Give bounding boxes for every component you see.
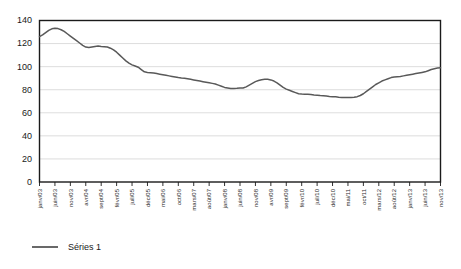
x-axis-tick-label: janv/08 [222,188,228,209]
x-axis-tick-label: avr/09 [268,188,274,205]
x-axis-tick-label: août/12 [391,188,397,209]
x-axis-tick-label: janv/13 [407,188,413,209]
x-axis-tick-label: mars/12 [376,188,382,210]
x-axis-tick-label: janv/03 [37,188,43,209]
x-axis-tick-label: févr/10 [299,188,305,207]
y-axis-tick-label: 0 [27,177,32,187]
x-axis-tick-label: nov/13 [438,188,444,207]
chart-background [0,0,461,269]
x-axis-tick-label: juil/05 [129,188,135,205]
x-axis-tick-label: oct/06 [176,188,182,205]
y-axis-tick-label: 100 [17,62,32,72]
y-axis-tick-label: 80 [22,85,32,95]
legend-label: Séries 1 [68,242,101,252]
x-axis-tick-label: mars/07 [191,188,197,210]
x-axis-tick-label: août/07 [206,188,212,209]
x-axis-tick-label: déc/05 [145,188,151,207]
y-axis-tick-label: 140 [17,15,32,25]
x-axis-tick-label: avr/04 [83,188,89,205]
x-axis-tick-label: févr/05 [114,188,120,207]
x-axis-tick-label: déc/10 [330,188,336,207]
x-axis-tick-label: juil/10 [314,188,320,205]
x-axis-tick-label: nov/08 [253,188,259,207]
x-axis-tick-label: juin/08 [237,188,243,207]
y-axis-tick-label: 40 [22,131,32,141]
line-chart: 020406080100120140 janv/03juin/03nov/03a… [0,0,461,269]
x-axis-tick-label: nov/03 [68,188,74,207]
x-axis-tick-label: juin/03 [52,188,58,207]
x-axis-tick-label: sept/09 [283,188,289,208]
x-axis-tick-label: sept/04 [98,188,104,208]
y-axis-tick-label: 60 [22,108,32,118]
x-axis-tick-label: oct/11 [361,188,367,205]
y-axis-tick-label: 120 [17,38,32,48]
x-axis-tick-label: mai/11 [345,188,351,206]
x-axis-tick-label: juin/13 [422,188,428,207]
x-axis-tick-label: mai/06 [160,188,166,207]
y-axis-tick-label: 20 [22,154,32,164]
chart-canvas: 020406080100120140 janv/03juin/03nov/03a… [0,0,461,269]
